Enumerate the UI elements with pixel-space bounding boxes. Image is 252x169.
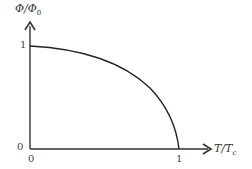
- x-tick-1: 1: [176, 153, 182, 164]
- y-axis-label: Φ/Φ0: [15, 2, 41, 17]
- x-axis-label: T/Tc: [214, 142, 236, 157]
- y-tick-0: 0: [17, 141, 23, 152]
- order-parameter-curve: [30, 46, 179, 149]
- y-tick-1: 1: [20, 39, 26, 50]
- x-tick-0: 0: [28, 153, 34, 164]
